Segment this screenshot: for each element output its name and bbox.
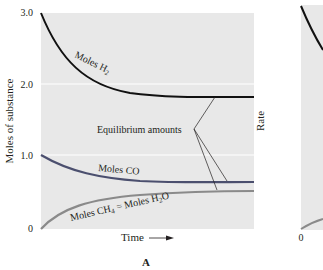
equilibrium-figure: 3.0 2.0 1.0 0 Moles of substance Moles H… — [0, 0, 323, 270]
tick-2: 2.0 — [21, 79, 34, 90]
x-axis-label: Time — [121, 231, 144, 243]
tick-1: 1.0 — [21, 150, 34, 161]
annotation-equilibrium: Equilibrium amounts — [97, 124, 182, 135]
tick-0: 0 — [28, 223, 33, 234]
tick-3: 3.0 — [21, 7, 34, 18]
panel-label-a: A — [142, 256, 150, 268]
tick-0-b: 0 — [299, 232, 304, 243]
panel-a: 3.0 2.0 1.0 0 Moles of substance Moles H… — [3, 7, 254, 268]
plot-area-b — [301, 5, 323, 230]
panel-b: Rate 0 — [254, 5, 323, 243]
y-axis-label-rate: Rate — [254, 111, 266, 131]
y-axis-label: Moles of substance — [3, 78, 15, 163]
time-arrow-icon — [149, 236, 174, 241]
